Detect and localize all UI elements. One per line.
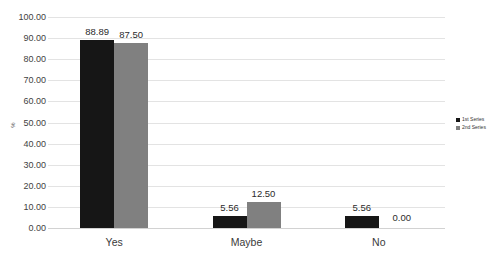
bar-value-label: 0.00 xyxy=(393,212,412,223)
legend-swatch-icon xyxy=(456,126,460,130)
cropped-chart-title xyxy=(0,0,502,3)
legend-label: 2nd Series xyxy=(462,125,486,130)
gridline xyxy=(48,228,445,229)
y-axis-tick-label: 60.00 xyxy=(0,96,46,106)
y-axis-tick-label: 50.00 xyxy=(0,118,46,128)
legend-item[interactable]: 2nd Series xyxy=(456,125,502,130)
legend-swatch-icon xyxy=(456,118,460,122)
y-axis-tick-label: 80.00 xyxy=(0,54,46,64)
bar[interactable] xyxy=(345,216,379,228)
y-axis-tick-label: 0.00 xyxy=(0,223,46,233)
x-axis-tick-labels: YesMaybeNo xyxy=(48,236,445,252)
y-axis-tick-label: 90.00 xyxy=(0,33,46,43)
y-axis-tick-label: 40.00 xyxy=(0,139,46,149)
y-axis-tick-label: 30.00 xyxy=(0,160,46,170)
y-axis-title: % xyxy=(10,122,16,127)
y-axis-tick-label: 10.00 xyxy=(0,202,46,212)
chart-legend: 1st Series2nd Series xyxy=(456,117,502,133)
y-axis-tick-label: 20.00 xyxy=(0,181,46,191)
x-axis-tick-label: No xyxy=(372,236,385,248)
y-axis-tick-label: 70.00 xyxy=(0,75,46,85)
legend-label: 1st Series xyxy=(462,117,484,122)
y-axis-tick-label: 100.00 xyxy=(0,12,46,22)
x-axis-tick-label: Maybe xyxy=(231,236,263,248)
bar-value-label: 5.56 xyxy=(353,202,372,213)
legend-item[interactable]: 1st Series xyxy=(456,117,502,122)
x-axis-tick-label: Yes xyxy=(106,236,123,248)
plot-area: 88.8987.505.5612.505.560.00 xyxy=(48,17,445,228)
bar-group: 5.560.00 xyxy=(48,17,445,228)
y-axis-tick-labels: 100.0090.0080.0070.0060.0050.0040.0030.0… xyxy=(0,17,46,228)
bar-chart: 100.0090.0080.0070.0060.0050.0040.0030.0… xyxy=(0,0,502,259)
